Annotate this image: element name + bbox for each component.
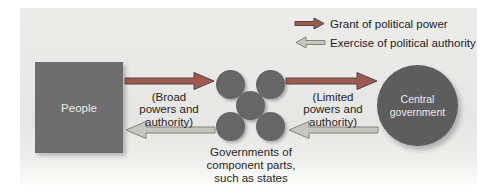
legend-grant-row: Grant of political power	[294, 16, 448, 31]
broad-powers-grant-arrow	[124, 70, 216, 92]
grant-arrow-icon	[294, 16, 326, 31]
people-node: People	[35, 62, 123, 153]
limited-powers-grant-arrow	[285, 70, 379, 92]
diagram-canvas: Grant of political power Exercise of pol…	[0, 0, 497, 195]
state-circle	[256, 112, 285, 141]
broad-powers-label: (Broad powers and authority)	[126, 91, 212, 128]
legend-exercise-row: Exercise of political authority	[294, 35, 476, 50]
central-government-node: Central government	[377, 65, 458, 146]
central-government-label: Central	[401, 93, 435, 105]
exercise-arrow-icon	[294, 35, 326, 50]
limited-powers-label: (Limited powers and authority)	[290, 91, 376, 128]
legend-exercise-label: Exercise of political authority	[330, 37, 476, 49]
component-governments-caption: Governments of component parts, such as …	[184, 146, 318, 185]
state-circle	[216, 112, 245, 141]
people-label: People	[61, 102, 97, 114]
legend-grant-label: Grant of political power	[330, 18, 448, 30]
